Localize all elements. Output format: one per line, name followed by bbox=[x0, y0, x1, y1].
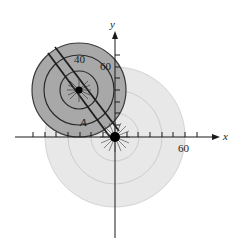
coordinate-diagram: y x 60 60 40 A bbox=[0, 0, 238, 250]
diagram-canvas: y x 60 60 40 A bbox=[0, 0, 238, 250]
point-label-a: A bbox=[79, 116, 87, 128]
x-axis-arrow-icon bbox=[212, 134, 220, 140]
y-axis-arrow-icon bbox=[112, 31, 118, 39]
x-axis-label: x bbox=[222, 130, 228, 142]
y-tick-label-60: 60 bbox=[100, 60, 112, 72]
x-tick-label-60: 60 bbox=[178, 142, 190, 154]
ring-label-40: 40 bbox=[74, 53, 86, 65]
y-axis-label: y bbox=[109, 18, 115, 30]
dark-center-point bbox=[76, 87, 83, 94]
origin-point bbox=[110, 132, 120, 142]
